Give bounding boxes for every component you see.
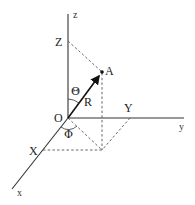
point-x-label: X	[29, 144, 38, 158]
x-axis-label: x	[17, 187, 22, 198]
origin-to-base-projection	[68, 118, 102, 150]
y-to-base-projection	[102, 118, 130, 150]
phi-label: Φ	[64, 128, 73, 141]
point-a-label: A	[105, 64, 114, 78]
x-axis	[12, 118, 68, 189]
spherical-coordinate-diagram: z y x Z A O Y X R Θ Φ	[0, 0, 195, 205]
vector-r-label: R	[84, 95, 92, 109]
origin-label: O	[54, 111, 63, 125]
point-y-label: Y	[124, 101, 133, 115]
z-axis-label: z	[73, 9, 78, 20]
z-to-a-projection	[68, 41, 102, 72]
y-axis-label: y	[179, 121, 184, 132]
point-a-dot	[100, 70, 104, 74]
point-z-label: Z	[55, 35, 62, 49]
theta-arc	[68, 99, 79, 103]
theta-label: Θ	[71, 85, 80, 98]
